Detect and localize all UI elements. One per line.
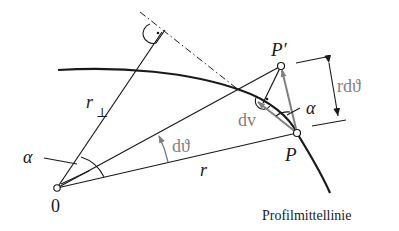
- tangent-dashdot-line: [140, 12, 240, 91]
- label-alpha-P: α: [306, 98, 316, 118]
- label-origin: 0: [51, 196, 60, 216]
- alpha-leader-origin: [44, 158, 77, 164]
- point-O: [54, 185, 60, 191]
- right-angle-mark-top: [143, 24, 165, 43]
- right-angle-dot-top: [157, 32, 160, 35]
- label-alpha-origin: α: [23, 147, 33, 167]
- dtheta-arc: [159, 136, 168, 162]
- profile-curve: [58, 69, 330, 193]
- label-dtheta: dϑ: [172, 136, 190, 156]
- label-r: r: [200, 160, 208, 180]
- alpha-arc-origin: [81, 157, 104, 177]
- r-perp-line: [57, 32, 162, 188]
- label-P: P: [284, 144, 297, 165]
- label-profile-line: Profilmittellinie: [262, 208, 351, 223]
- label-r-perp: r: [86, 92, 94, 112]
- geometry-diagram: 0 r ⊥ α dϑ r P P′ dv α rdϑ Profilmittell…: [0, 0, 399, 231]
- label-Pprime: P′: [270, 39, 288, 60]
- dim-line-top: [296, 57, 326, 63]
- point-P: [294, 130, 301, 137]
- dim-line-bottom: [312, 120, 346, 126]
- right-angle-dot-dv: [266, 98, 269, 101]
- label-dv: dv: [238, 110, 256, 130]
- label-r-dtheta: rdϑ: [337, 76, 361, 96]
- label-r-perp-sub: ⊥: [96, 105, 108, 120]
- point-Pprime: [278, 63, 285, 70]
